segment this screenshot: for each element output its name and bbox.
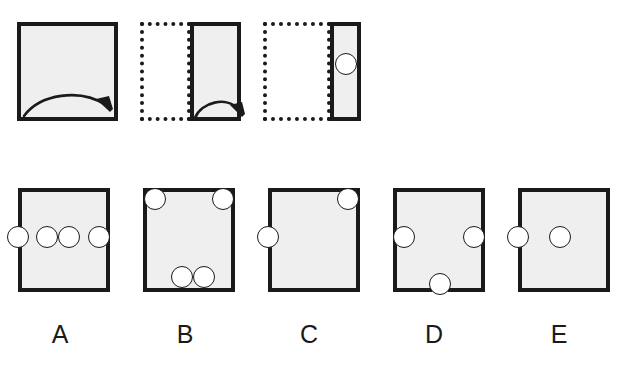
hole bbox=[337, 188, 359, 210]
hole bbox=[193, 266, 215, 288]
fold-arrow-right-step2 bbox=[193, 88, 247, 122]
hole bbox=[88, 226, 110, 248]
punched-hole bbox=[335, 53, 357, 75]
option-a-label: A bbox=[48, 322, 72, 347]
hole bbox=[7, 226, 29, 248]
hole bbox=[171, 266, 193, 288]
fold-arrow-right-step1 bbox=[22, 78, 116, 122]
paper-ghost-step2 bbox=[140, 22, 191, 121]
option-d-label: D bbox=[422, 322, 446, 347]
hole bbox=[212, 188, 234, 210]
option-e-label: E bbox=[547, 322, 571, 347]
option-b-label: B bbox=[173, 322, 197, 347]
hole bbox=[429, 273, 451, 295]
paper-ghost-step3 bbox=[263, 22, 331, 121]
hole bbox=[463, 226, 485, 248]
hole bbox=[36, 226, 58, 248]
hole bbox=[257, 226, 279, 248]
hole bbox=[507, 226, 529, 248]
hole bbox=[549, 226, 571, 248]
hole bbox=[58, 226, 80, 248]
hole bbox=[393, 226, 415, 248]
puzzle-figure: A B C D bbox=[0, 0, 631, 382]
option-c-label: C bbox=[297, 322, 321, 347]
hole bbox=[144, 188, 166, 210]
